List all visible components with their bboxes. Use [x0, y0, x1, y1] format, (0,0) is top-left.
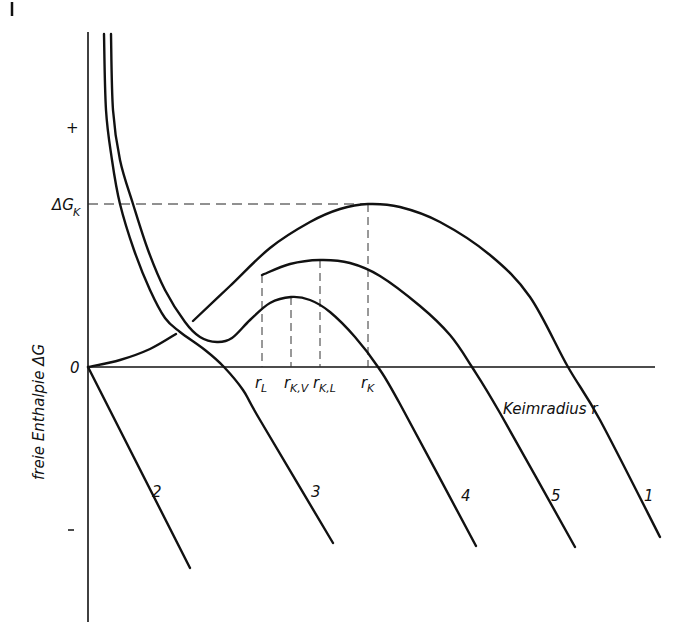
- nucleation-energy-diagram: + ΔG K 0 freie Enthalpie ΔG Keimradius r…: [0, 0, 686, 643]
- curve-labels: 23451: [152, 483, 654, 505]
- radius-marker: rL: [255, 374, 267, 395]
- radius-marker-sub: K,V: [290, 382, 310, 395]
- curve-1-upper: [193, 204, 660, 537]
- radius-marker-sub: L: [261, 382, 267, 395]
- y-tick-dGk-sub: K: [73, 206, 81, 219]
- radius-marker-sub: K: [367, 382, 375, 395]
- radius-marker-sub: K,L: [319, 382, 336, 395]
- curve-2: [88, 367, 190, 568]
- y-tick-plus: +: [66, 119, 79, 137]
- curve-1: [88, 334, 176, 367]
- y-tick-dGk: ΔG K: [51, 196, 81, 219]
- radius-marker: rK,V: [284, 374, 310, 395]
- reference-lines: [88, 204, 368, 367]
- curve-number-label: 1: [644, 487, 654, 505]
- radius-marker: rK: [361, 374, 375, 395]
- curve-number-label: 5: [551, 487, 561, 505]
- energy-curves: [88, 34, 660, 568]
- curve-number-label: 3: [311, 483, 321, 501]
- radius-marker: rK,L: [313, 374, 336, 395]
- radius-markers: rLrK,VrK,LrK: [255, 374, 375, 395]
- y-tick-dGk-main: ΔG: [51, 196, 74, 214]
- diagram-canvas: + ΔG K 0 freie Enthalpie ΔG Keimradius r…: [0, 0, 686, 643]
- y-tick-zero: 0: [70, 359, 80, 377]
- curve-number-label: 2: [152, 483, 162, 501]
- y-axis-label: freie Enthalpie ΔG: [30, 344, 48, 480]
- x-axis-label: Keimradius r: [503, 400, 598, 418]
- curve-4: [111, 34, 476, 546]
- curve-number-label: 4: [461, 487, 471, 505]
